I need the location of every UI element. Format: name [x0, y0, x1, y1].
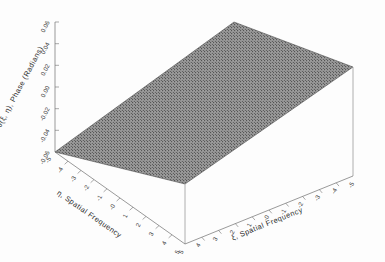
- xi-tick-label: -3: [312, 193, 321, 202]
- eta-tick-label: 3: [147, 230, 155, 237]
- eta-tick-label: -2: [81, 183, 90, 192]
- xi-tick-label: -5: [346, 180, 355, 189]
- figure-container: 0.06 0.04 0.02 0.00 -0.02 -0.04 -0.06 θ(…: [0, 0, 385, 262]
- z-tick-label: -0.04: [38, 127, 51, 144]
- eta-tick-label: -0: [107, 202, 116, 211]
- eta-tick-label: -1: [94, 193, 103, 202]
- z-tick-labels: 0.06 0.04 0.02 0.00 -0.02 -0.04 -0.06: [38, 19, 51, 166]
- z-tick-label: -0.02: [38, 105, 51, 122]
- xi-axis: [185, 176, 353, 244]
- xi-tick-label: 3: [211, 235, 219, 242]
- surface-mesh: [55, 22, 353, 184]
- z-tick-label: 0.02: [39, 62, 51, 77]
- z-tick-label: 0.00: [39, 84, 51, 99]
- eta-axis-title: η, Spatial Frequency: [55, 188, 123, 239]
- eta-tick-label: 1: [121, 212, 129, 219]
- eta-tick-label: -3: [68, 174, 77, 183]
- eta-tick-label: 2: [134, 221, 142, 228]
- eta-axis-title-group: η, Spatial Frequency: [55, 188, 123, 239]
- xi-tick-label: 4: [194, 241, 202, 248]
- surface-plot: 0.06 0.04 0.02 0.00 -0.02 -0.04 -0.06 θ(…: [0, 0, 385, 262]
- xi-tick-labels: 5 4 3 2 1 -0 -1 -2 -3 -4 -5: [177, 180, 356, 255]
- xi-tick-label: -4: [329, 186, 338, 195]
- eta-tick-label: -4: [55, 165, 64, 174]
- z-axis: [55, 22, 59, 152]
- eta-tick-label: 4: [160, 239, 168, 246]
- z-tick-label: 0.06: [39, 19, 51, 34]
